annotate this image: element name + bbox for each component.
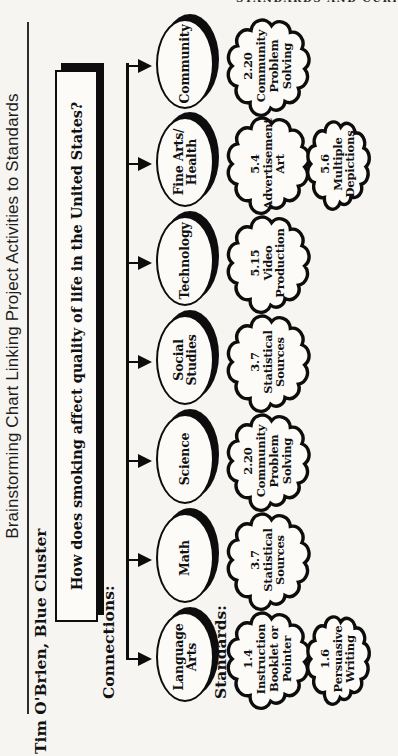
- arrow-icon: [138, 355, 152, 369]
- scanned-book-page: STANDARDS AND CURRICULUM Brainstorming C…: [0, 0, 398, 756]
- standard-cloud: 3.7 Statistical Sources: [226, 314, 310, 410]
- author-line: Tim O'Brien, Blue Cluster: [31, 529, 50, 754]
- subject-label: Community: [178, 25, 191, 104]
- subject-oval: Science: [156, 414, 214, 504]
- arrow-icon: [138, 59, 152, 73]
- standard-text: 5.4 Advertisement Art: [249, 118, 288, 209]
- subject-oval: Community: [156, 19, 214, 109]
- standard-cloud: 5.15 Video Production: [226, 215, 310, 311]
- standard-cloud: 1.6 Persuasive Writing: [306, 615, 370, 703]
- standard-text: 3.7 Statistical Sources: [249, 528, 288, 592]
- subject-oval: Fine Arts/ Health: [156, 117, 214, 207]
- standard-text: 2.20 Community Problem Solving: [242, 30, 294, 102]
- chart-title: Brainstorming Chart Linking Project Acti…: [3, 16, 23, 616]
- subject-label: Math: [178, 540, 191, 576]
- standard-cloud: 5.6 Multiple Depictions: [306, 120, 370, 208]
- standard-text: 1.4 Instruction Booklet or Pointer: [242, 624, 294, 694]
- arrow-icon: [138, 256, 152, 270]
- standard-cloud: 2.20 Community Problem Solving: [226, 18, 310, 114]
- standard-text: 2.20 Community Problem Solving: [242, 425, 294, 497]
- subject-label: Fine Arts/ Health: [172, 129, 198, 196]
- question-box: How does smoking affect quality of life …: [55, 70, 98, 622]
- connections-label: Connections:: [99, 585, 118, 699]
- subject-label: Technology: [178, 222, 191, 299]
- standard-text: 5.6 Multiple Depictions: [319, 131, 358, 198]
- subject-oval: Technology: [156, 216, 214, 306]
- arrow-icon: [138, 652, 152, 666]
- arrow-icon: [138, 454, 152, 468]
- subject-label: Social Studies: [172, 335, 198, 386]
- brainstorming-chart: Brainstorming Chart Linking Project Acti…: [0, 0, 398, 756]
- arrow-icon: [138, 553, 152, 567]
- standard-text: 3.7 Statistical Sources: [249, 330, 288, 394]
- question-text: How does smoking affect quality of life …: [68, 102, 85, 591]
- subject-oval: Social Studies: [156, 315, 214, 405]
- standard-text: 1.6 Persuasive Writing: [319, 626, 358, 693]
- standard-text: 5.15 Video Production: [249, 228, 288, 298]
- title-rule: [27, 22, 29, 714]
- arrow-icon: [138, 157, 152, 171]
- subject-oval: Math: [156, 513, 214, 603]
- subject-label: Language Arts: [172, 624, 198, 691]
- standard-cloud: 2.20 Community Problem Solving: [226, 413, 310, 509]
- subject-oval: Language Arts: [156, 612, 214, 702]
- subject-label: Science: [178, 433, 191, 486]
- standard-cloud: 3.7 Statistical Sources: [226, 512, 310, 608]
- standard-cloud: 1.4 Instruction Booklet or Pointer: [226, 611, 310, 707]
- standard-cloud: 5.4 Advertisement Art: [226, 116, 310, 212]
